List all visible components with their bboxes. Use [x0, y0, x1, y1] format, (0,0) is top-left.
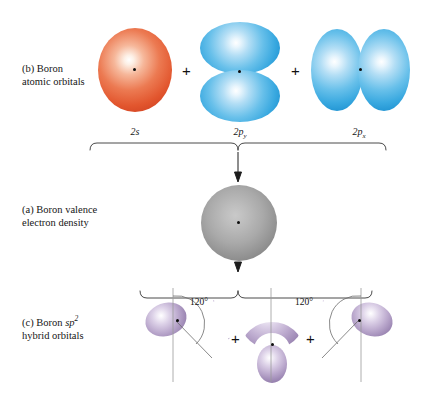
plus-sign-b-2: +: [291, 63, 300, 78]
orbital-label-2py-sub: y: [243, 132, 246, 140]
plus-sign-c-1: +: [231, 331, 240, 346]
boron-hybridization-figure: (b) Boron atomic orbitals + + 2s 2py 2px…: [0, 0, 448, 398]
nucleus-dot-hybrid-3: [358, 319, 361, 322]
arrow-down-to-density: [235, 152, 242, 182]
caption-c-line1-italic: sp: [65, 317, 74, 328]
orbital-label-2s-main: 2s: [131, 126, 140, 137]
hybrid-orbital-1-back-lobe: [141, 297, 192, 342]
hybrid-orbital-2-back-lobe: [257, 345, 287, 383]
angle-label-left-120: 120°: [190, 297, 208, 307]
nucleus-dot-hybrid-2: [271, 343, 274, 346]
angle-label-right-120: 120°: [295, 297, 313, 307]
caption-c-line1-sup: 2: [75, 314, 79, 323]
caption-b-boron-atomic-orbitals: (b) Boron atomic orbitals: [22, 62, 85, 88]
caption-c-line1: (c) Boron sp2: [22, 312, 84, 329]
orbital-2px-right-lobe: [358, 29, 410, 111]
caption-a-line2: electron density: [22, 216, 97, 229]
caption-c-boron-sp2-hybrid-orbitals: (c) Boron sp2 hybrid orbitals: [22, 312, 84, 342]
orbital-2py-lower-lobe: [200, 70, 280, 122]
brace-top-down: [90, 143, 386, 150]
caption-c-line1-pre: (c) Boron: [22, 317, 65, 328]
brace-bottom-up: [140, 291, 372, 298]
orbital-2px-left-lobe: [311, 29, 363, 111]
hybrid-orbital-2-front-lobe: [241, 295, 303, 349]
caption-b-line1: (b) Boron: [22, 62, 85, 75]
orbital-label-2py: 2py: [215, 126, 265, 140]
caption-a-boron-valence-electron-density: (a) Boron valence electron density: [22, 203, 97, 229]
hybrid-orbital-3-back-lobe: [347, 297, 398, 342]
orbital-label-2px-sub: x: [362, 132, 365, 140]
orbital-2py-upper-lobe: [200, 22, 280, 74]
plus-sign-b-1: +: [182, 63, 191, 78]
caption-b-line2: atomic orbitals: [22, 75, 85, 88]
nucleus-dot-2px: [359, 68, 362, 71]
orbital-label-2px: 2px: [334, 126, 384, 140]
orbital-label-2px-main: 2p: [352, 126, 362, 137]
orbital-label-2py-main: 2p: [233, 126, 243, 137]
caption-c-line2: hybrid orbitals: [22, 329, 84, 342]
nucleus-dot-2s: [133, 68, 136, 71]
caption-a-line1: (a) Boron valence: [22, 203, 97, 216]
nucleus-dot-hybrid-1: [176, 319, 179, 322]
nucleus-dot-2py: [238, 70, 241, 73]
arrow-down-to-hybrids: [235, 262, 242, 272]
nucleus-dot-density: [237, 221, 240, 224]
orbital-label-2s: 2s: [110, 126, 160, 137]
